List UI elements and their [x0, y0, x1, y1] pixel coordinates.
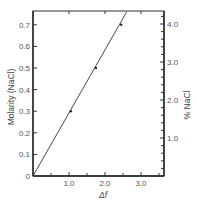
svg-text:0.4: 0.4	[19, 86, 31, 95]
y-tick-labels: 0 0.1 0.2 0.3 0.4 0.5 0.6 0.7	[19, 21, 31, 181]
svg-text:1.0: 1.0	[63, 179, 75, 188]
x-axis-label: Δf	[98, 190, 109, 200]
svg-text:2.0: 2.0	[167, 96, 179, 105]
svg-text:0: 0	[26, 172, 31, 181]
svg-text:3.0: 3.0	[135, 179, 147, 188]
y2-axis-label: % NaCl	[182, 90, 192, 119]
x-tick-labels: 1.0 2.0 3.0	[63, 179, 147, 188]
y2-ticks	[160, 16, 164, 168]
y2-tick-labels: 1.0 2.0 3.0 4.0	[167, 20, 179, 143]
svg-text:0.1: 0.1	[19, 150, 31, 159]
x-ticks	[51, 11, 159, 176]
fit-line	[33, 12, 127, 176]
svg-text:1.0: 1.0	[167, 134, 179, 143]
svg-text:0.3: 0.3	[19, 107, 31, 116]
svg-text:0.7: 0.7	[19, 21, 31, 30]
data-points	[70, 24, 123, 113]
svg-text:0.2: 0.2	[19, 129, 31, 138]
svg-text:2.0: 2.0	[99, 179, 111, 188]
plot-frame	[33, 11, 164, 176]
y-axis-label: Molarity (NaCl)	[6, 68, 16, 125]
chart: 0 0.1 0.2 0.3 0.4 0.5 0.6 0.7 1.0 2.0 3.…	[0, 0, 197, 208]
svg-text:0.5: 0.5	[19, 64, 31, 73]
svg-text:3.0: 3.0	[167, 58, 179, 67]
svg-text:0.6: 0.6	[19, 42, 31, 51]
svg-text:4.0: 4.0	[167, 20, 179, 29]
